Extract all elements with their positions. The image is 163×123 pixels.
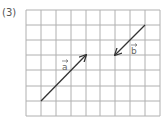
vector-label-b: b (131, 46, 137, 56)
vector-a: a (41, 55, 86, 101)
vectors: ab (41, 25, 145, 101)
vector-grid-figure: ab (0, 0, 163, 123)
vector-label-a: a (62, 62, 68, 72)
grid (26, 10, 160, 116)
